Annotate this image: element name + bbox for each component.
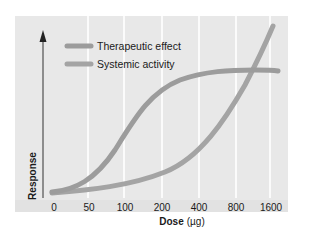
dose-response-chart: Therapeutic effect Systemic activity Res… — [0, 0, 316, 242]
x-tick-200: 200 — [154, 202, 171, 213]
x-tick-800: 800 — [228, 202, 245, 213]
legend-label-systemic: Systemic activity — [97, 58, 175, 70]
x-axis-title-unit: (µg) — [187, 216, 205, 227]
x-tick-100: 100 — [117, 202, 134, 213]
x-tick-50: 50 — [83, 202, 95, 213]
x-tick-0: 0 — [51, 202, 57, 213]
x-tick-400: 400 — [191, 202, 208, 213]
legend-label-therapeutic: Therapeutic effect — [97, 40, 181, 52]
x-axis-title-main: Dose — [159, 216, 184, 227]
y-axis-title: Response — [27, 152, 38, 200]
x-tick-1600: 1600 — [260, 202, 283, 213]
x-axis-title: Dose(µg) — [159, 216, 204, 227]
